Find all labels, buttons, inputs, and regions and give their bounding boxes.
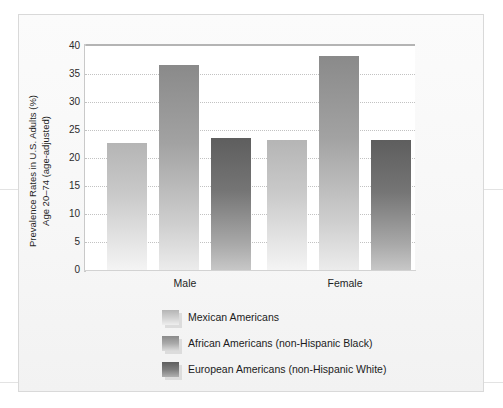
y-tick-30: 30 [54,97,80,107]
legend-item-african-americans: African Americans (non-Hispanic Black) [162,330,462,356]
x-tick-male: Male [145,277,225,289]
x-axis-line [84,270,416,271]
legend-swatch-icon-african [162,336,179,351]
bar-female-african [319,56,359,270]
gridline-30 [85,102,415,103]
y-tick-5: 5 [54,237,80,247]
y-tick-40: 40 [54,41,80,51]
x-tick-female: Female [305,277,385,289]
bar-female-european [371,140,411,270]
gridline-35 [85,74,415,75]
y-axis-title: Prevalence Rates in U.S. Adults (%) Age … [26,66,52,276]
bar-body [107,143,147,270]
bar-body [267,140,307,270]
bar-body [159,65,199,270]
legend-swatch-icon-mexican [162,310,179,325]
bar-body [211,138,251,270]
y-axis-title-line1: Prevalence Rates in U.S. Adults (%) [27,95,38,247]
chart-figure: Prevalence Rates in U.S. Adults (%) Age … [0,0,503,408]
legend-label-european: European Americans (non-Hispanic White) [188,363,386,375]
bar-male-african [159,65,199,270]
y-tick-10: 10 [54,209,80,219]
bar-male-european [211,138,251,270]
y-tick-35: 35 [54,69,80,79]
legend-label-african: African Americans (non-Hispanic Black) [188,337,372,349]
chart-legend: Mexican Americans African Americans (non… [162,304,462,382]
y-axis-title-line2: Age 20–74 (age-adjusted) [40,116,51,226]
legend-label-mexican: Mexican Americans [188,311,279,323]
gridline-25 [85,130,415,131]
bar-male-mexican [107,143,147,270]
y-tick-25: 25 [54,125,80,135]
bar-body [371,140,411,270]
y-tick-15: 15 [54,181,80,191]
plot-area [85,46,415,270]
legend-item-european-americans: European Americans (non-Hispanic White) [162,356,462,382]
y-tick-0: 0 [54,265,80,275]
legend-item-mexican-americans: Mexican Americans [162,304,462,330]
legend-swatch-icon-european [162,362,179,377]
bar-body [319,56,359,270]
bar-female-mexican [267,140,307,270]
y-tick-20: 20 [54,153,80,163]
y-axis-tick-labels: 40 35 30 25 20 15 10 5 0 [52,0,80,408]
